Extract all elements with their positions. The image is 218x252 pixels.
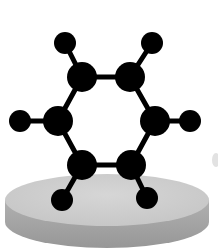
hydrogen-atom (9, 110, 31, 132)
carbon-atom (115, 62, 145, 92)
hydrogen-atom (54, 32, 76, 54)
hydrogen-atom (179, 110, 201, 132)
disk-top (5, 174, 209, 226)
carbon-atom (67, 150, 97, 180)
carbon-atom (140, 106, 170, 136)
carbon-atom (116, 150, 146, 180)
background-shape (212, 153, 218, 167)
carbon-atom (43, 106, 73, 136)
carbon-atom (67, 62, 97, 92)
hydrogen-atom (51, 189, 73, 211)
hydrogen-atom (141, 32, 163, 54)
pedestal-disk (5, 174, 209, 248)
carbon-atoms (43, 62, 170, 180)
benzene-illustration (0, 0, 218, 252)
hydrogen-atom (136, 187, 158, 209)
